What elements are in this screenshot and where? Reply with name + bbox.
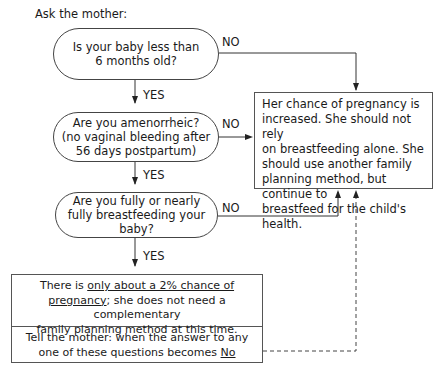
question-amenorrheic: Are you amenorrheic? (no vaginal bleedin… xyxy=(53,112,219,162)
outcome-text: increased. She should not rely xyxy=(262,112,426,142)
outcome-text: should use another family xyxy=(262,157,426,172)
outcome-text: Her chance of pregnancy is xyxy=(262,97,426,112)
outcome-low-chance: There is only about a 2% chance of pregn… xyxy=(12,275,262,327)
outcome-emphasis: pregnancy xyxy=(48,294,106,307)
yes-label: YES xyxy=(143,88,165,102)
outcome-low-chance-box: There is only about a 2% chance of pregn… xyxy=(11,274,263,363)
advice-text: one of these questions becomes xyxy=(38,346,220,359)
diagram-title: Ask the mother: xyxy=(35,7,127,21)
advice-emphasis: No xyxy=(221,346,236,359)
outcome-text: breastfeed for the child's health. xyxy=(262,202,426,232)
outcome-text: on breastfeeding alone. She xyxy=(262,142,426,157)
advice-section: Tell the mother: when the answer to any … xyxy=(12,327,262,360)
no-label: NO xyxy=(222,201,240,215)
question-text: (no vaginal bleeding after xyxy=(62,130,211,144)
yes-label: YES xyxy=(143,249,165,263)
question-breastfeeding: Are you fully or nearly fully breastfeed… xyxy=(55,192,218,238)
question-text: Is your baby less than xyxy=(73,40,200,54)
outcome-text: There is xyxy=(40,279,87,292)
question-text: Are you amenorrheic? xyxy=(62,116,211,130)
outcome-emphasis: only about a 2% chance of xyxy=(87,279,234,292)
outcome-text: planning method, but continue to xyxy=(262,172,426,202)
outcome-text: ; she does not need a complementary xyxy=(94,294,226,322)
no-label: NO xyxy=(222,117,240,131)
no-label: NO xyxy=(222,35,240,49)
question-text: 6 months old? xyxy=(73,54,200,68)
outcome-increased-chance: Her chance of pregnancy is increased. Sh… xyxy=(254,92,433,189)
question-text: fully breastfeeding your baby? xyxy=(56,208,217,236)
advice-text: Tell the mother: when the answer to any xyxy=(12,330,262,345)
yes-label: YES xyxy=(143,168,165,182)
question-text: Are you fully or nearly xyxy=(56,194,217,208)
question-baby-age: Is your baby less than 6 months old? xyxy=(53,28,219,80)
question-text: 56 days postpartum) xyxy=(62,144,211,158)
